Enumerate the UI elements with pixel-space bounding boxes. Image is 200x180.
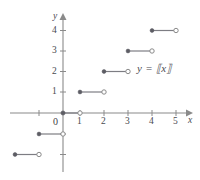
x-tick-label-3: 3 xyxy=(125,117,130,127)
x-tick-label-2: 2 xyxy=(101,117,106,127)
y-axis-arrow xyxy=(60,13,67,20)
open-dot-0 xyxy=(78,111,82,115)
closed-dot-2 xyxy=(102,70,106,74)
closed-dot-4 xyxy=(150,29,154,33)
closed-dot-neg1 xyxy=(37,132,41,136)
closed-dot-3 xyxy=(126,49,130,53)
y-axis-label: y xyxy=(53,12,57,22)
x-axis-label: x xyxy=(188,116,192,126)
open-dot-3 xyxy=(150,49,154,53)
step-function-figure: 0 1 2 3 4 5 1 2 3 4 x y y = ⟦x⟧ xyxy=(0,0,200,180)
open-dot-neg2 xyxy=(37,152,41,156)
y-tick-label-2: 2 xyxy=(52,67,57,77)
y-tick-label-3: 3 xyxy=(52,46,57,56)
open-dot-neg1 xyxy=(61,132,65,136)
closed-dot-neg2 xyxy=(13,153,17,157)
x-tick-label-1: 1 xyxy=(77,117,82,127)
open-dot-4 xyxy=(174,28,178,32)
open-dot-1 xyxy=(102,90,106,94)
closed-dot-0 xyxy=(61,111,65,115)
y-tick-label-4: 4 xyxy=(52,26,57,36)
closed-dot-1 xyxy=(78,90,82,94)
x-tick-label-5: 5 xyxy=(173,117,178,127)
x-tick-label-4: 4 xyxy=(149,117,154,127)
origin-label: 0 xyxy=(53,116,58,127)
y-axis xyxy=(60,13,67,172)
y-tick-label-1: 1 xyxy=(52,87,57,97)
open-dot-2 xyxy=(126,69,130,73)
plot-canvas xyxy=(0,0,200,180)
function-equation-label: y = ⟦x⟧ xyxy=(137,62,172,75)
step-segments xyxy=(13,28,178,156)
